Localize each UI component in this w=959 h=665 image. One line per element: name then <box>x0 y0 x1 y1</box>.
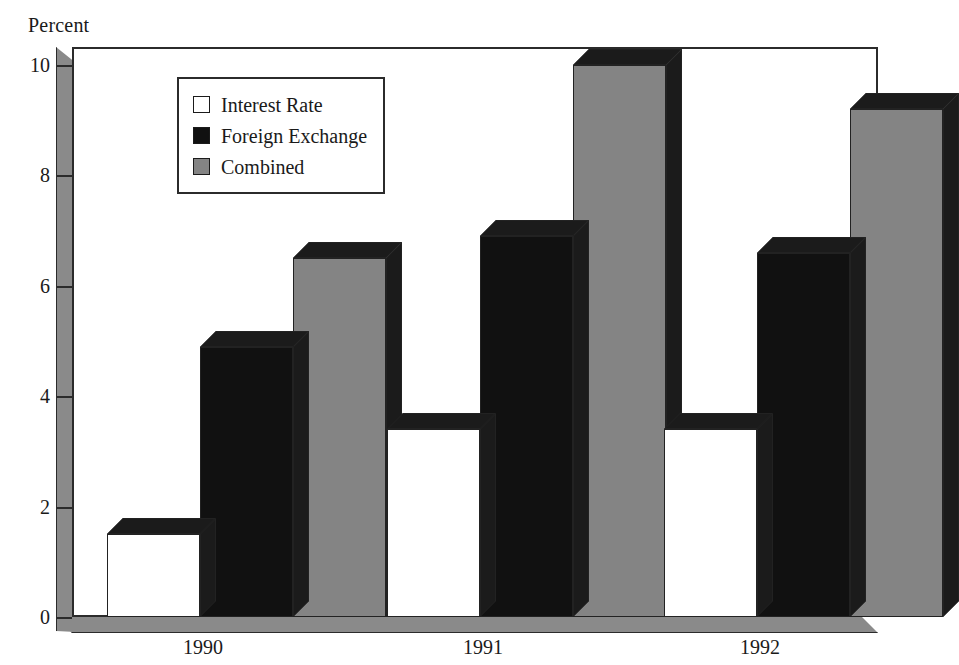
bar-1990-combined <box>293 242 402 617</box>
bar-top-face <box>664 413 773 429</box>
y-tick-label-6: 6 <box>4 275 50 298</box>
y-tick-label-4: 4 <box>4 385 50 408</box>
bar-1992-combined <box>850 93 959 617</box>
bar-front-face <box>107 534 200 617</box>
bar-side-face <box>850 237 866 617</box>
legend-swatch-combined-icon <box>193 158 210 175</box>
y-tick-2 <box>56 507 72 509</box>
y-tick-0 <box>56 617 72 619</box>
y-tick-label-0: 0 <box>4 606 50 629</box>
legend-label-foreign-exchange: Foreign Exchange <box>221 126 367 146</box>
plot-floor-3d <box>56 617 878 633</box>
bar-1992-interest-rate <box>664 413 773 617</box>
bar-side-face <box>293 331 309 617</box>
y-tick-label-10: 10 <box>4 54 50 77</box>
bar-top-face <box>387 413 496 429</box>
bar-top-face <box>757 237 866 253</box>
y-axis-title: Percent <box>28 14 89 37</box>
legend-swatch-foreign-exchange-icon <box>193 127 210 144</box>
x-tick-label-1992: 1992 <box>740 636 780 659</box>
legend-label-interest-rate: Interest Rate <box>221 95 323 115</box>
y-tick-10 <box>56 65 72 67</box>
x-tick-label-1990: 1990 <box>183 636 223 659</box>
bar-top-face <box>293 242 402 258</box>
legend-label-combined: Combined <box>221 157 304 177</box>
y-tick-6 <box>56 286 72 288</box>
bar-top-face <box>107 518 216 534</box>
bar-side-face <box>757 413 773 617</box>
bar-top-face <box>200 331 309 347</box>
bar-front-face <box>664 429 757 617</box>
legend-item-combined: Combined <box>193 151 367 182</box>
legend: Interest Rate Foreign Exchange Combined <box>177 77 385 194</box>
y-tick-label-8: 8 <box>4 164 50 187</box>
legend-item-interest-rate: Interest Rate <box>193 89 367 120</box>
bar-front-face <box>387 429 480 617</box>
bar-1992-foreign-exchange <box>757 237 866 617</box>
bar-side-face <box>943 93 959 617</box>
x-tick-label-1991: 1991 <box>463 636 503 659</box>
bar-1991-foreign-exchange <box>480 220 589 617</box>
bar-1990-interest-rate <box>107 518 216 617</box>
legend-item-foreign-exchange: Foreign Exchange <box>193 120 367 151</box>
bar-top-face <box>850 93 959 109</box>
bar-top-face <box>480 220 589 236</box>
bar-1990-foreign-exchange <box>200 331 309 617</box>
y-tick-label-2: 2 <box>4 496 50 519</box>
legend-swatch-interest-rate-icon <box>193 96 210 113</box>
y-tick-8 <box>56 175 72 177</box>
bar-side-face <box>480 413 496 617</box>
bar-top-face <box>573 49 682 65</box>
bar-1991-interest-rate <box>387 413 496 617</box>
y-tick-4 <box>56 396 72 398</box>
bar-side-face <box>573 220 589 617</box>
bar-side-face <box>200 518 216 617</box>
